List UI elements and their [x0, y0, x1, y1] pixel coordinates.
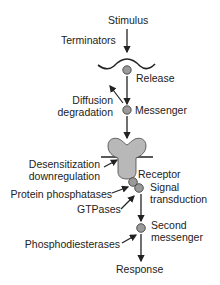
desensitization-arrow: [104, 160, 117, 167]
phosphodiesterases-arrow: [122, 235, 136, 243]
release-node-icon: [123, 66, 131, 74]
phosphatases-arrow: [112, 187, 128, 193]
terminators-label: Terminators: [61, 34, 116, 46]
diffusion-label-line2: degradation: [55, 106, 113, 118]
response-label: Response: [116, 263, 163, 275]
phosphodiesterases-label: Phosphodiesterases: [20, 238, 120, 250]
gtpases-label: GTPases: [77, 203, 121, 215]
signal-transduction-label-line2: transduction: [150, 193, 207, 205]
messenger-node-icon: [123, 106, 131, 114]
receptor-label: Receptor: [138, 168, 181, 180]
protein-phosphatases-label: Protein phosphatases: [4, 188, 112, 200]
desensitization-label-line1: Desensitization: [20, 158, 100, 170]
second-messenger-label-line2: messenger: [151, 231, 203, 243]
desensitization-label-line2: downregulation: [20, 170, 100, 182]
messenger-label: Messenger: [135, 104, 187, 116]
stimulus-label: Stimulus: [108, 14, 148, 26]
signal-transduction-label-line1: Signal: [150, 181, 179, 193]
second-messenger-label-line1: Second: [151, 219, 187, 231]
transduction-node-2-icon: [135, 184, 144, 193]
gtpases-arrow: [121, 196, 134, 209]
diffusion-label-line1: Diffusion: [55, 94, 113, 106]
release-label: Release: [136, 72, 175, 84]
second-messenger-node-icon: [137, 224, 146, 233]
